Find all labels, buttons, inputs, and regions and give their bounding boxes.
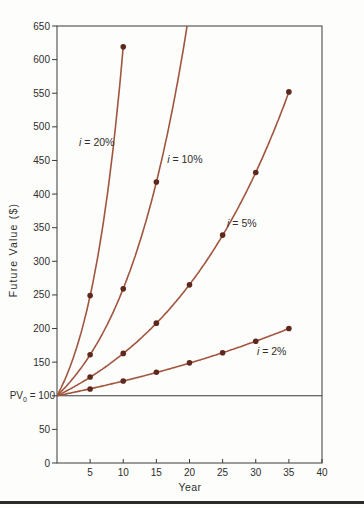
y-tick-label: 600 (33, 54, 50, 65)
curve-i-20pct (57, 47, 123, 396)
x-tick-label: 10 (118, 467, 130, 478)
curve-i-10pct (57, 0, 195, 396)
curve-i-20pct-point (87, 293, 93, 299)
curve-i-5pct-point (154, 320, 160, 326)
x-tick-label: 5 (87, 467, 93, 478)
curve-i-5pct-point (187, 282, 193, 288)
curve-i-5pct-point (87, 374, 93, 380)
x-axis-title: Year (160, 481, 220, 493)
y-axis-title: Future Value ($) (7, 170, 19, 330)
curve-i-2pct-point (87, 386, 93, 392)
curve-i-2pct-point (253, 339, 259, 345)
x-tick-label: 30 (250, 467, 262, 478)
y-tick-label: 300 (33, 256, 50, 267)
curve-i-5pct-point (120, 351, 126, 357)
y-tick-label: 450 (33, 155, 50, 166)
curve-i-5pct-label: i = 5% (227, 217, 257, 229)
x-tick-label: 35 (283, 467, 295, 478)
figure-page: 0501502002503003504004505005506006505101… (0, 0, 364, 508)
pv0-label-base: PV (10, 390, 23, 401)
curve-i-2pct-point (187, 360, 193, 366)
curve-i-5pct-point (286, 89, 292, 95)
plot-frame (57, 26, 322, 463)
y-tick-label: 200 (33, 323, 50, 334)
curve-i-20pct-label: i = 20% (79, 136, 114, 148)
curve-i-10pct-point (87, 352, 93, 358)
curve-i-2pct-point (154, 369, 160, 375)
curve-i-2pct-point (286, 326, 292, 332)
curve-i-20pct-point (120, 44, 126, 50)
y-tick-label: 400 (33, 189, 50, 200)
x-tick-label: 40 (316, 467, 328, 478)
curves-group (57, 0, 289, 396)
y-tick-label: 550 (33, 88, 50, 99)
curve-i-2pct (57, 329, 289, 396)
y-tick-label: 0 (44, 458, 50, 469)
curve-i-2pct-point (120, 378, 126, 384)
y-tick-label: 650 (33, 21, 50, 32)
x-tick-label: 25 (217, 467, 229, 478)
curve-i-10pct-point (154, 179, 160, 185)
page-bottom-rule (0, 501, 364, 504)
pv0-label-value: = 100 (27, 390, 55, 401)
curve-i-10pct-point (120, 286, 126, 292)
y-tick-label: 150 (33, 357, 50, 368)
y-tick-label: 250 (33, 289, 50, 300)
curve-i-5pct-point (253, 170, 259, 176)
curve-i-10pct-label: i = 10% (167, 153, 202, 165)
x-tick-label: 20 (184, 467, 196, 478)
curve-i-5pct-point (220, 232, 226, 238)
chart-canvas: 0501502002503003504004505005506006505101… (0, 0, 364, 508)
curve-i-2pct-label: i = 2% (257, 345, 287, 357)
pv0-reference-label: PV0 = 100 (6, 390, 55, 403)
y-tick-label: 50 (39, 424, 51, 435)
curve-i-2pct-point (220, 350, 226, 356)
x-tick-label: 15 (151, 467, 163, 478)
y-tick-label: 350 (33, 222, 50, 233)
y-tick-label: 500 (33, 121, 50, 132)
